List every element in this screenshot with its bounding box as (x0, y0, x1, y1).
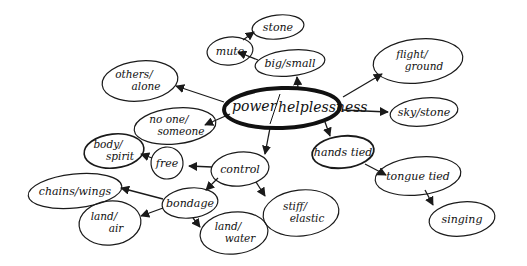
node-label: water (225, 232, 257, 244)
node-label: land/ (215, 220, 243, 232)
node-label: others/ (115, 68, 154, 80)
node-stone-top: stone (251, 12, 305, 41)
node-stiff-elastic: stiff/elastic (261, 186, 341, 240)
central-node: power helplessness (223, 86, 367, 130)
node-label: control (220, 163, 260, 176)
edge-arrow-hands-tied-to-tongue-tied (365, 164, 386, 175)
edge-arrow-power-helplessness-to-hands-tied (325, 122, 330, 136)
node-hands-tied: hands tied (310, 133, 375, 171)
node-label: ground (405, 60, 444, 72)
node-others-alone: others/alone (100, 57, 180, 105)
edge-arrow-control-to-stiff-elastic (256, 182, 265, 196)
node-label: alone (132, 80, 161, 92)
node-label: someone (157, 125, 204, 137)
node-chains-wings: chains/wings (26, 169, 123, 213)
node-label: elastic (290, 212, 325, 224)
central-node-label-helplessness: helplessness (278, 99, 368, 115)
node-tongue-tied: tongue tied (373, 153, 463, 200)
edge-arrow-tongue-tied-to-singing (425, 190, 433, 205)
node-land-air: land/air (77, 198, 143, 248)
node-no-one-someone: no one/someone (132, 104, 217, 148)
edge-arrow-power-helplessness-to-flight-ground (343, 74, 382, 97)
edge-arrow-power-helplessness-to-others-alone (176, 86, 224, 102)
node-mute: mute (206, 35, 255, 68)
node-label: land/ (91, 210, 119, 222)
node-label: air (109, 222, 125, 234)
node-bondage: bondage (161, 185, 220, 221)
node-label: singing (442, 213, 483, 226)
node-label: flight/ (395, 48, 429, 60)
node-label: tongue tied (386, 170, 450, 183)
node-label: no one/ (149, 113, 190, 125)
node-label: hands tied (314, 146, 372, 159)
node-label: chains/wings (39, 185, 112, 198)
node-singing: singing (427, 199, 496, 240)
node-sky-stone: sky/stone (389, 95, 460, 130)
node-label: spirit (106, 150, 135, 162)
edge-arrow-bondage-to-chains-wings (121, 188, 163, 199)
node-free: free (149, 145, 184, 180)
node-label: body/ (93, 138, 124, 150)
node-body-spirit: body/spirit (82, 131, 145, 171)
node-label: sky/stone (398, 106, 451, 119)
node-control: control (209, 149, 270, 189)
node-big-small: big/small (254, 46, 326, 79)
edge-arrow-power-helplessness-to-control (265, 128, 270, 154)
nodes-layer: stonemutebig/smallothers/aloneno one/som… (26, 12, 496, 257)
node-label: bondage (166, 197, 214, 210)
mind-map-canvas: stonemutebig/smallothers/aloneno one/som… (0, 0, 527, 266)
edge-arrow-bondage-to-land-water (193, 218, 200, 227)
node-land-water: land/water (198, 209, 270, 258)
node-label: big/small (265, 57, 316, 70)
node-label: free (155, 157, 179, 170)
node-label: mute (216, 45, 245, 58)
node-flight-ground: flight/ground (371, 34, 465, 87)
node-label: stone (263, 21, 294, 34)
node-label: stiff/ (283, 200, 308, 212)
central-node-label-power: power (232, 98, 278, 114)
edge-arrow-bondage-to-land-air (141, 208, 163, 216)
edge-arrow-control-to-free (189, 166, 212, 167)
